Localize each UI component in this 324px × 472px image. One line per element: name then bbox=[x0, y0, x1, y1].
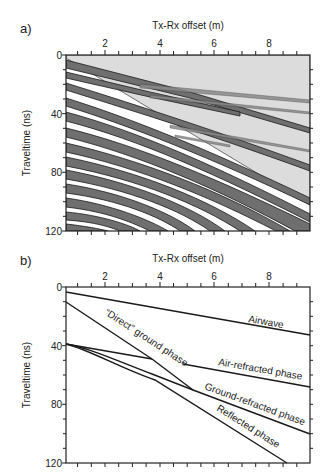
panel-a-x-axis-title: Tx-Rx offset (m) bbox=[152, 20, 223, 31]
x-tick-label: 4 bbox=[157, 38, 163, 49]
panel-b-x-axis-title: Tx-Rx offset (m) bbox=[152, 253, 223, 264]
y-tick-label: 80 bbox=[51, 167, 63, 178]
panel-a-label: a) bbox=[20, 21, 32, 36]
panel-a-x-tick-labels: 2 4 6 8 bbox=[102, 38, 272, 49]
y-tick-label: 40 bbox=[51, 341, 63, 352]
panel-a-wavefield bbox=[66, 55, 310, 231]
panel-b-y-tick-labels: 0 40 80 120 bbox=[45, 282, 62, 469]
y-tick-label: 120 bbox=[45, 458, 62, 469]
panel-b-y-axis-title: Traveltime (ns) bbox=[21, 342, 32, 408]
x-tick-label: 8 bbox=[266, 271, 272, 282]
y-tick-label: 0 bbox=[56, 50, 62, 61]
x-tick-label: 6 bbox=[211, 271, 217, 282]
x-tick-label: 8 bbox=[266, 38, 272, 49]
panel-a: a) Tx-Rx offset (m) Traveltime (ns) 2 4 … bbox=[20, 20, 313, 237]
x-tick-label: 6 bbox=[211, 38, 217, 49]
x-tick-label: 4 bbox=[157, 271, 163, 282]
x-tick-label: 2 bbox=[102, 38, 108, 49]
y-tick-label: 80 bbox=[51, 399, 63, 410]
panel-a-y-tick-labels: 0 40 80 120 bbox=[45, 50, 62, 237]
panel-b-x-tick-labels: 2 4 6 8 bbox=[102, 271, 272, 282]
figure-canvas: a) Tx-Rx offset (m) Traveltime (ns) 2 4 … bbox=[0, 0, 324, 472]
panel-b-label: b) bbox=[20, 253, 32, 268]
panel-b: b) Tx-Rx offset (m) Traveltime (ns) 2 4 … bbox=[20, 253, 313, 469]
y-tick-label: 0 bbox=[56, 282, 62, 293]
y-tick-label: 120 bbox=[45, 226, 62, 237]
panel-a-y-axis-title: Traveltime (ns) bbox=[21, 110, 32, 176]
y-tick-label: 40 bbox=[51, 109, 63, 120]
x-tick-label: 2 bbox=[102, 271, 108, 282]
